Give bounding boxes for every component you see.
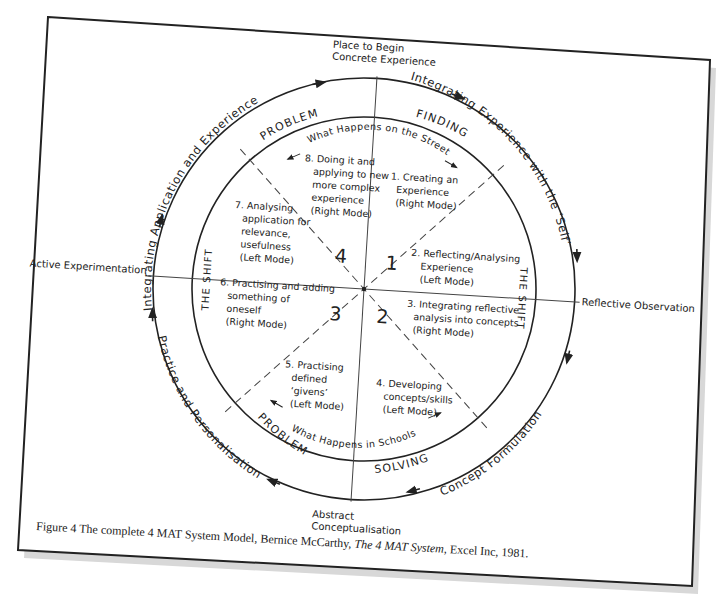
quadrant-number-4: 4	[334, 244, 347, 267]
quadrant-number-1: 1	[385, 251, 398, 274]
step-1: 1. Creating an Experience (Right Mode)	[389, 170, 462, 211]
quadrant-number-3: 3	[329, 302, 342, 325]
figure-page: Place to Begin Concrete Experience Refle…	[0, 0, 719, 597]
arrow-icon	[152, 309, 154, 321]
quadrant-number-2: 2	[376, 305, 389, 328]
arrow-icon	[576, 249, 578, 261]
